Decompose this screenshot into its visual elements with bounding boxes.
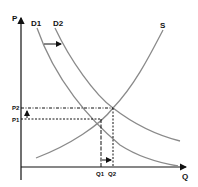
s-label: S	[160, 21, 166, 30]
supply-demand-diagram: P Q D1 D2 S P2 P1 Q1 Q2	[0, 0, 198, 187]
supply-curve-s	[36, 30, 163, 158]
d2-label: D2	[53, 19, 64, 28]
diagram-canvas: P Q D1 D2 S P2 P1 Q1 Q2	[0, 0, 198, 187]
d1-label: D1	[31, 19, 42, 28]
q1-label: Q1	[96, 171, 105, 177]
demand-curve-d2	[55, 28, 180, 141]
q2-label: Q2	[108, 171, 117, 177]
x-axis-label: Q	[182, 172, 188, 181]
y-axis-label: P	[12, 14, 18, 23]
demand-curve-d1	[37, 28, 178, 166]
p1-label: P1	[12, 117, 20, 123]
p2-label: P2	[12, 105, 20, 111]
